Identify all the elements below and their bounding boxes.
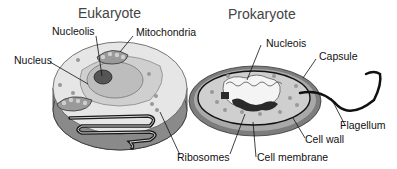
label-nucleois: Nucleois bbox=[266, 37, 306, 49]
label-nucleus: Nucleus bbox=[14, 54, 52, 66]
eukaryote-cell bbox=[53, 42, 187, 150]
eukaryote-title: Eukaryote bbox=[78, 5, 141, 21]
label-flagellum: Flagellum bbox=[340, 119, 386, 131]
label-capsule: Capsule bbox=[319, 50, 358, 62]
label-mitochondria: Mitochondria bbox=[136, 26, 196, 38]
label-nucleolis: Nucleolis bbox=[52, 25, 95, 37]
label-ribosomes: Ribosomes bbox=[177, 151, 230, 163]
label-cell-membrane: Cell membrane bbox=[257, 151, 328, 163]
cell-diagram: Eukaryote Prokaryote Nucleolis Mitochond… bbox=[0, 0, 397, 169]
prokaryote-title: Prokaryote bbox=[228, 6, 296, 22]
label-cell-wall: Cell wall bbox=[305, 133, 344, 145]
